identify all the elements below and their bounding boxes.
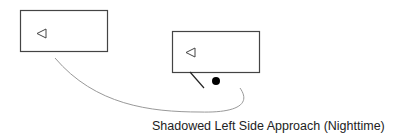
diagram-caption: Shadowed Left Side Approach (Nighttime) <box>152 119 385 133</box>
vehicle-1-box <box>21 11 108 52</box>
vehicle-2-box <box>173 32 260 73</box>
shadow-line <box>190 72 204 88</box>
black-dot-icon <box>212 77 220 85</box>
approach-path-curve <box>55 58 244 112</box>
left-triangle-icon <box>186 48 195 57</box>
left-triangle-icon <box>37 29 46 38</box>
